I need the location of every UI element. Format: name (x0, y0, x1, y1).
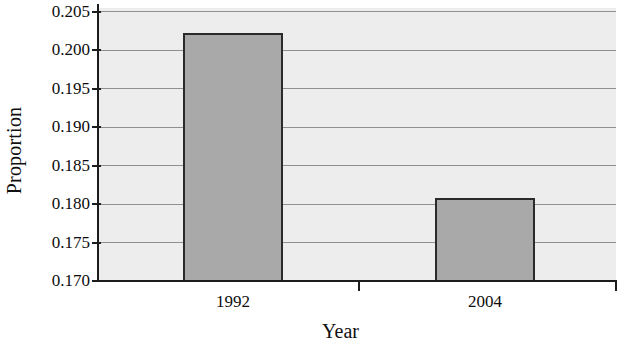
y-axis-tick-mark (92, 49, 101, 51)
x-axis-tick-mark (615, 282, 617, 291)
y-axis-tick-label: 0.200 (24, 40, 90, 60)
y-axis-tick-mark (92, 88, 101, 90)
x-axis-title-label: Year (322, 320, 359, 343)
plot-area (99, 8, 616, 281)
gridline (99, 165, 616, 166)
y-axis-tick-label: 0.175 (24, 233, 90, 253)
x-axis-line (97, 280, 617, 282)
y-axis-tick-label: 0.195 (24, 79, 90, 99)
y-axis-tick-label: 0.170 (24, 271, 90, 291)
x-axis-tick-mark (358, 282, 360, 291)
gridline (99, 50, 616, 51)
gridline (99, 88, 616, 89)
y-axis-tick-label: 0.205 (24, 2, 90, 22)
y-axis-tick-labels: 0.1700.1750.1800.1850.1900.1950.2000.205 (24, 0, 90, 300)
x-axis-title: Year (0, 320, 629, 343)
y-axis-tick-mark (92, 280, 101, 282)
y-axis-line (97, 4, 99, 282)
x-axis-tick-label: 1992 (216, 292, 250, 312)
y-axis-tick-mark (92, 11, 101, 13)
y-axis-tick-label: 0.190 (24, 117, 90, 137)
gridline (99, 242, 616, 243)
y-axis-tick-label: 0.180 (24, 194, 90, 214)
y-axis-tick-label: 0.185 (24, 156, 90, 176)
gridline (99, 127, 616, 128)
gridline (99, 11, 616, 12)
bar-2004 (435, 198, 535, 281)
y-axis-tick-mark (92, 242, 101, 244)
bar-chart-figure: Proportion 0.1700.1750.1800.1850.1900.19… (0, 0, 629, 354)
y-axis-tick-mark (92, 126, 101, 128)
x-axis-tick-label: 2004 (468, 292, 502, 312)
bar-1992 (183, 33, 283, 281)
gridline (99, 204, 616, 205)
y-axis-tick-mark (92, 165, 101, 167)
y-axis-tick-mark (92, 203, 101, 205)
